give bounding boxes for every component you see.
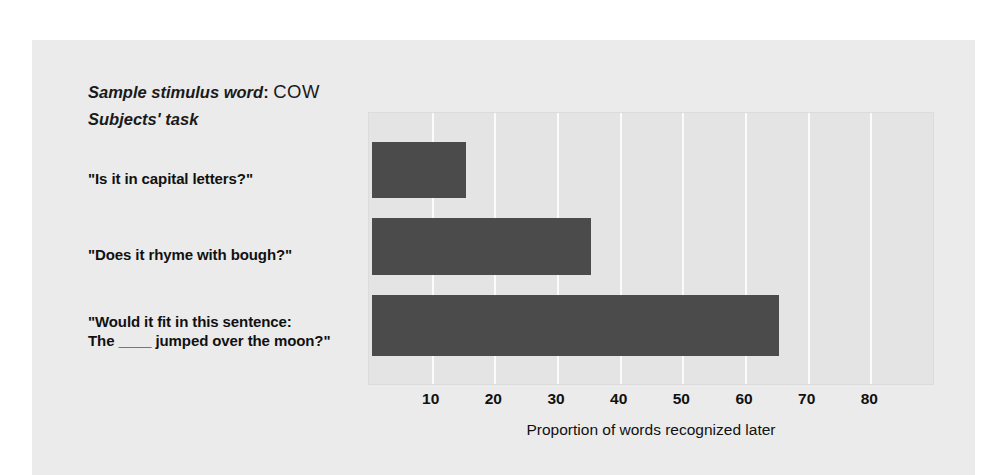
gridline-70 [808, 113, 810, 384]
stimulus-word-value: COW [273, 81, 320, 102]
xtick-label-70: 70 [798, 390, 815, 408]
bar-rhyme [372, 218, 591, 275]
category-label-line: "Does it rhyme with bough?" [88, 245, 398, 264]
xtick-label-30: 30 [547, 390, 564, 408]
xtick-label-40: 40 [610, 390, 627, 408]
category-label-rhyme: "Does it rhyme with bough?" [88, 245, 398, 264]
xtick-label-20: 20 [485, 390, 502, 408]
xtick-label-10: 10 [422, 390, 439, 408]
stimulus-word-line: Sample stimulus word: COW [88, 78, 418, 107]
xtick-label-80: 80 [861, 390, 878, 408]
figure-panel: Sample stimulus word: COW Subjects' task… [32, 40, 975, 475]
gridline-80 [870, 113, 872, 384]
stimulus-word-colon: : [263, 83, 269, 101]
category-label-sentence: "Would it fit in this sentence: The ____… [88, 312, 398, 350]
plot-area [368, 112, 934, 385]
bar-sentence [372, 295, 779, 356]
category-label-line: "Is it in capital letters?" [88, 169, 398, 188]
figure-root: Sample stimulus word: COW Subjects' task… [0, 0, 1007, 475]
category-label-line: The ____ jumped over the moon?" [88, 331, 398, 350]
category-label-line: "Would it fit in this sentence: [88, 312, 398, 331]
bar-capital-letters [372, 142, 466, 198]
xtick-label-60: 60 [735, 390, 752, 408]
xtick-label-50: 50 [673, 390, 690, 408]
x-axis-title: Proportion of words recognized later [368, 421, 934, 439]
category-label-capital-letters: "Is it in capital letters?" [88, 169, 398, 188]
stimulus-word-label: Sample stimulus word [88, 83, 263, 101]
